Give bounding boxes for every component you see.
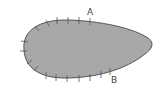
label-b: B	[111, 76, 117, 85]
teardrop-diagram	[0, 0, 160, 92]
teardrop-shape	[24, 20, 152, 78]
label-a: A	[87, 8, 93, 17]
